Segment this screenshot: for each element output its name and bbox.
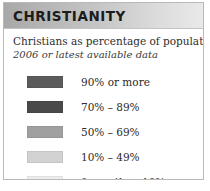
legend-swatch-icon [27, 151, 63, 163]
legend-subtitle: Christians as percentage of population [13, 35, 203, 48]
legend-swatch-icon [27, 126, 63, 138]
legend-item-label: 50% – 69% [81, 126, 140, 138]
map-legend-panel: CHRISTIANITY Christians as percentage of… [3, 2, 204, 180]
legend-item-label: 90% or more [81, 76, 150, 88]
legend-body: Christians as percentage of population 2… [4, 29, 203, 180]
legend-item-label: 70% – 89% [81, 101, 140, 113]
legend-header: CHRISTIANITY [4, 3, 203, 29]
list-item: 10% – 49% [13, 144, 203, 169]
legend-swatch-icon [27, 76, 63, 88]
page-title: CHRISTIANITY [13, 8, 126, 24]
legend-swatch-icon [27, 176, 63, 181]
list-item: fewer than 10% [13, 169, 203, 180]
list-item: 50% – 69% [13, 119, 203, 144]
list-item: 90% or more [13, 69, 203, 94]
legend-item-label: fewer than 10% [81, 176, 165, 181]
list-item: 70% – 89% [13, 94, 203, 119]
legend-data-note: 2006 or latest available data [13, 48, 203, 61]
legend-item-list: 90% or more 70% – 89% 50% – 69% 10% – 49… [13, 69, 203, 180]
legend-item-label: 10% – 49% [81, 151, 140, 163]
legend-swatch-icon [27, 101, 63, 113]
